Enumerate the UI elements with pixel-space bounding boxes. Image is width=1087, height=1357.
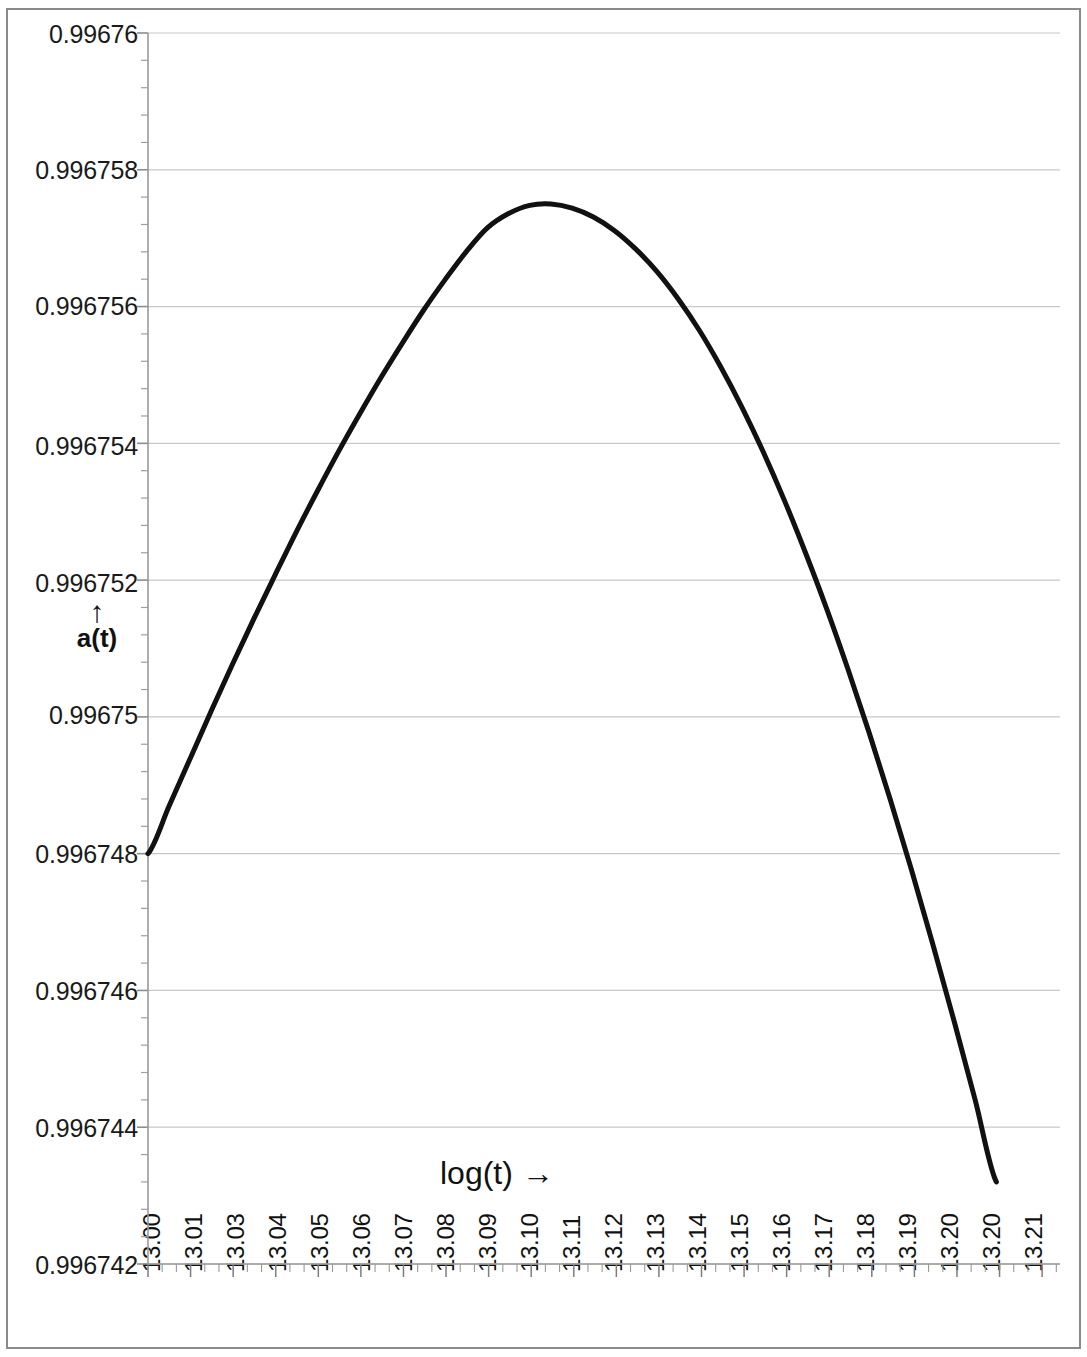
- axis-minor-ticks-group: [141, 60, 1056, 1272]
- axis-major-ticks-group: [137, 33, 1042, 1277]
- data-series-line: [148, 204, 996, 1182]
- gridlines-group: [148, 33, 1060, 1264]
- chart-page: 0.99676 0.996758 0.996756 0.996754 0.996…: [0, 0, 1087, 1357]
- chart-plot-area: [0, 0, 1087, 1357]
